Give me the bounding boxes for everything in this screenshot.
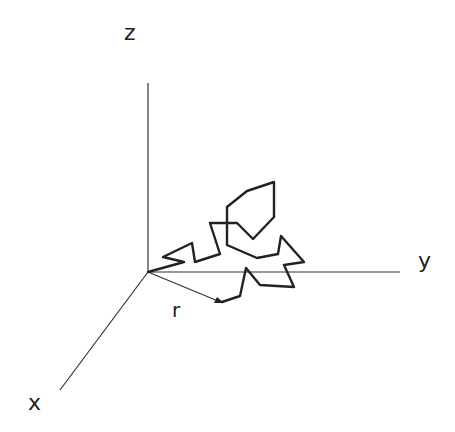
r-vector xyxy=(148,272,218,301)
y-axis-label: y xyxy=(418,250,431,272)
z-axis-label: z xyxy=(124,22,136,44)
random-walk-path xyxy=(148,182,304,302)
x-axis xyxy=(60,272,148,390)
x-axis-label: x xyxy=(28,392,41,414)
r-vector-label: r xyxy=(172,300,180,320)
random-walk-diagram xyxy=(0,0,455,432)
